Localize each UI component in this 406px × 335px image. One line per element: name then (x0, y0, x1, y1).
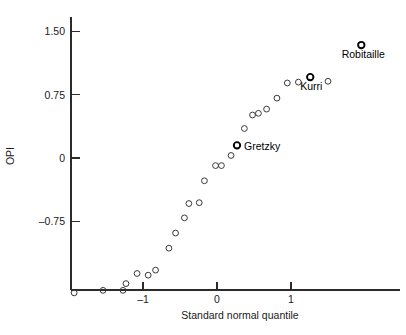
data-point (284, 80, 290, 86)
y-tick-label: 0.75 (45, 89, 66, 101)
y-axis-ticks: 1.500.750–0.75 (39, 25, 80, 227)
y-tick-label: –0.75 (39, 215, 65, 227)
data-point (241, 126, 247, 132)
data-point-gretzky (234, 142, 240, 148)
data-point (228, 153, 234, 159)
data-point (325, 78, 331, 84)
data-point (123, 281, 129, 287)
data-point (264, 106, 270, 112)
scatter-plot-figure: 1.500.750–0.75 –101 GretzkyKurriRobitail… (0, 0, 406, 335)
data-point (153, 267, 159, 273)
x-tick-label: –1 (137, 293, 149, 305)
point-label-kurri: Kurri (300, 80, 322, 92)
data-point (250, 112, 256, 118)
data-point (196, 200, 202, 206)
x-tick-label: 1 (288, 293, 294, 305)
y-tick-label: 0 (59, 152, 65, 164)
x-tick-label: 0 (214, 293, 220, 305)
data-point (145, 272, 151, 278)
data-point (256, 110, 262, 116)
y-axis-title: OPI (4, 147, 16, 165)
point-label-robitaille: Robitaille (342, 48, 385, 60)
data-point (182, 215, 188, 221)
data-point (166, 245, 172, 251)
data-point (173, 230, 179, 236)
point-labels-group: GretzkyKurriRobitaille (244, 48, 385, 152)
data-point (213, 163, 219, 169)
x-axis-ticks: –101 (137, 282, 294, 305)
data-point (219, 163, 225, 169)
data-point (186, 201, 192, 207)
data-point (134, 271, 140, 277)
data-point (274, 95, 280, 101)
data-point (71, 290, 77, 296)
plot-canvas: 1.500.750–0.75 –101 GretzkyKurriRobitail… (0, 0, 406, 335)
y-tick-label: 1.50 (45, 25, 66, 37)
data-point (202, 178, 208, 184)
x-axis-title: Standard normal quantile (181, 309, 298, 321)
point-label-gretzky: Gretzky (244, 140, 281, 152)
